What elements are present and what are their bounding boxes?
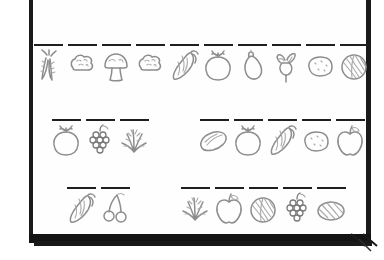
pepper-icon: [236, 49, 268, 83]
tomato-icon: [202, 49, 234, 83]
worksheet-cell[interactable]: [303, 44, 337, 83]
answer-blank-line[interactable]: [268, 119, 297, 121]
apple-icon: [334, 124, 366, 158]
worksheet-cell[interactable]: [98, 187, 132, 226]
potato-icon: [304, 49, 336, 83]
worksheet-cell[interactable]: [64, 187, 98, 226]
answer-blank-line[interactable]: [136, 44, 165, 46]
answer-blank-line[interactable]: [302, 119, 331, 121]
herbs-icon: [118, 124, 150, 158]
answer-blank-line[interactable]: [101, 187, 130, 189]
worksheet-cell[interactable]: [337, 44, 371, 83]
worksheet-cell[interactable]: [333, 119, 367, 158]
answer-blank-line[interactable]: [34, 44, 63, 46]
answer-blank-line[interactable]: [340, 44, 369, 46]
worksheet-cell[interactable]: [49, 119, 83, 158]
worksheet-row-3: [64, 187, 348, 226]
worksheet-row-1: [31, 44, 371, 83]
worksheet-cell[interactable]: [65, 44, 99, 83]
worksheet-cell[interactable]: [299, 119, 333, 158]
page-edge-right: [366, 0, 371, 234]
worksheet-cell[interactable]: [99, 44, 133, 83]
worksheet-row-2: [49, 119, 367, 158]
row-1-group-1: [31, 44, 371, 83]
corn-icon: [266, 124, 298, 158]
worksheet-cell[interactable]: [246, 187, 280, 226]
worksheet-cell[interactable]: [83, 119, 117, 158]
worksheet-cell[interactable]: [231, 119, 265, 158]
cauliflower-icon: [134, 49, 166, 83]
cucumber-icon: [198, 124, 230, 158]
answer-blank-line[interactable]: [336, 119, 365, 121]
worksheet-cell[interactable]: [235, 44, 269, 83]
answer-blank-line[interactable]: [102, 44, 131, 46]
corn-icon: [65, 192, 97, 226]
answer-blank-line[interactable]: [170, 44, 199, 46]
answer-blank-line[interactable]: [249, 187, 278, 189]
answer-blank-line[interactable]: [68, 44, 97, 46]
worksheet-cell[interactable]: [280, 187, 314, 226]
answer-blank-line[interactable]: [238, 44, 267, 46]
answer-blank-line[interactable]: [86, 119, 115, 121]
answer-blank-line[interactable]: [306, 44, 335, 46]
carrots-icon: [32, 49, 64, 83]
answer-blank-line[interactable]: [181, 187, 210, 189]
melon-icon: [315, 192, 347, 226]
answer-blank-line[interactable]: [283, 187, 312, 189]
cauliflower-icon: [66, 49, 98, 83]
row-3-group-2: [178, 187, 348, 226]
worksheet-cell[interactable]: [133, 44, 167, 83]
answer-blank-line[interactable]: [120, 119, 149, 121]
answer-blank-line[interactable]: [272, 44, 301, 46]
mushroom-icon: [100, 49, 132, 83]
answer-blank-line[interactable]: [52, 119, 81, 121]
answer-blank-line[interactable]: [200, 119, 229, 121]
worksheet-cell[interactable]: [265, 119, 299, 158]
answer-blank-line[interactable]: [234, 119, 263, 121]
worksheet-cell[interactable]: [197, 119, 231, 158]
tomato-icon: [232, 124, 264, 158]
worksheet-cell[interactable]: [31, 44, 65, 83]
page-shadow-band2: [34, 241, 372, 246]
herbs-icon: [179, 192, 211, 226]
cherries-icon: [99, 192, 131, 226]
potato-icon: [300, 124, 332, 158]
answer-blank-line[interactable]: [67, 187, 96, 189]
worksheet-cell[interactable]: [167, 44, 201, 83]
row-2-group-2: [197, 119, 367, 158]
apple-icon: [213, 192, 245, 226]
page-edge-left: [29, 0, 33, 234]
worksheet-cell[interactable]: [117, 119, 151, 158]
tomato-icon: [50, 124, 82, 158]
worksheet-cell[interactable]: [314, 187, 348, 226]
grapes-icon: [281, 192, 313, 226]
answer-blank-line[interactable]: [215, 187, 244, 189]
scanned-page-view: [0, 0, 384, 260]
cabbage-icon: [338, 49, 370, 83]
cabbage-icon: [247, 192, 279, 226]
worksheet-cell[interactable]: [269, 44, 303, 83]
answer-blank-line[interactable]: [204, 44, 233, 46]
radish-icon: [270, 49, 302, 83]
worksheet-cell[interactable]: [212, 187, 246, 226]
corn-icon: [168, 49, 200, 83]
worksheet-cell[interactable]: [201, 44, 235, 83]
grapes-icon: [84, 124, 116, 158]
worksheet-cell[interactable]: [178, 187, 212, 226]
row-3-group-1: [64, 187, 132, 226]
answer-blank-line[interactable]: [317, 187, 346, 189]
row-2-group-1: [49, 119, 151, 158]
folded-corner-icon: [349, 233, 383, 259]
